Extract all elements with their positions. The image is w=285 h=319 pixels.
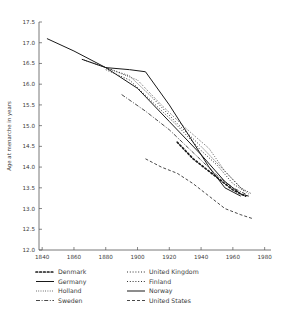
series-line-holland <box>82 59 249 194</box>
y-tick-label: 14.0 <box>23 164 36 170</box>
y-tick-label: 16.0 <box>23 81 36 87</box>
x-tick-label: 1960 <box>226 254 241 260</box>
legend-label-norway: Norway <box>149 287 173 295</box>
series-line-denmark <box>177 142 245 196</box>
y-tick-label: 12.0 <box>23 247 36 253</box>
x-tick-label: 1840 <box>35 254 50 260</box>
x-tick-label: 1980 <box>258 254 273 260</box>
chart-legend: DenmarkGermanyHollandSwedenUnited Kingdo… <box>36 268 199 304</box>
x-tick-label: 1860 <box>67 254 82 260</box>
y-tick-label: 16.5 <box>23 60 36 66</box>
legend-label-finland: Finland <box>149 278 171 285</box>
x-axis: 18401860188019001920194019601980 <box>35 247 272 260</box>
y-axis-title: Age at menarche in years <box>6 101 13 171</box>
legend-label-united-kingdom: United Kingdom <box>149 268 199 276</box>
y-axis-label: Age at menarche in years <box>6 101 13 171</box>
series-line-finland <box>106 70 246 192</box>
series-line-sweden <box>122 95 246 194</box>
menarche-age-chart: 12.012.513.013.514.014.515.015.516.016.5… <box>0 0 285 319</box>
legend-label-united-states: United States <box>149 297 191 304</box>
y-tick-label: 13.0 <box>23 206 36 212</box>
x-tick-label: 1920 <box>162 254 177 260</box>
y-tick-label: 17.0 <box>23 40 36 46</box>
y-tick-label: 15.0 <box>23 123 36 129</box>
x-tick-label: 1880 <box>99 254 114 260</box>
legend-label-denmark: Denmark <box>58 268 87 275</box>
y-axis: 12.012.513.013.514.014.515.015.516.016.5… <box>23 19 42 253</box>
y-tick-label: 12.5 <box>23 226 36 232</box>
y-tick-label: 17.5 <box>23 19 36 25</box>
legend-label-sweden: Sweden <box>58 297 83 304</box>
series-line-norway <box>47 39 249 197</box>
y-tick-label: 15.5 <box>23 102 36 108</box>
series-line-united-states <box>145 159 253 219</box>
y-tick-label: 13.5 <box>23 185 36 191</box>
y-tick-label: 14.5 <box>23 143 36 149</box>
x-tick-label: 1900 <box>130 254 145 260</box>
legend-label-holland: Holland <box>58 287 82 294</box>
x-tick-label: 1940 <box>194 254 209 260</box>
data-series-group <box>47 39 254 219</box>
chart-canvas: 12.012.513.013.514.014.515.015.516.016.5… <box>0 0 285 319</box>
legend-label-germany: Germany <box>58 278 87 286</box>
